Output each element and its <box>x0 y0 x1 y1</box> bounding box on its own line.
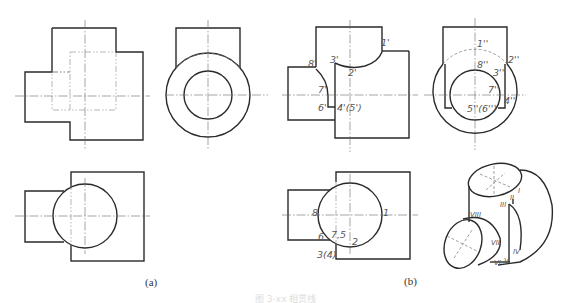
view-b-isometric: I II III IV V VI VII VIII <box>438 159 553 274</box>
bottom-caption: 图 3-xx 相贯线 <box>255 293 316 303</box>
svg-text:3': 3' <box>330 54 339 65</box>
svg-text:8': 8' <box>308 58 317 69</box>
svg-text:6': 6' <box>318 102 327 113</box>
svg-text:5''(6''): 5''(6'') <box>467 103 497 114</box>
svg-text:7': 7' <box>318 84 327 95</box>
orthographic-drawing: (a) 1' 2' 3' 8' 7' 6' 4'(5') 1'' 2'' 3''… <box>0 0 568 303</box>
svg-text:3(4): 3(4) <box>317 249 337 260</box>
view-a-side <box>165 20 268 150</box>
view-a-front <box>15 20 150 150</box>
svg-text:3'': 3'' <box>493 67 504 78</box>
svg-text:1: 1 <box>383 207 389 218</box>
svg-text:4'': 4'' <box>504 95 515 106</box>
svg-text:1'': 1'' <box>477 38 488 49</box>
svg-text:VII: VII <box>491 239 500 247</box>
svg-text:1': 1' <box>381 37 390 48</box>
view-b-front: 1' 2' 3' 8' 7' 6' 4'(5') <box>282 20 418 152</box>
view-b-top: 8 1 6 7,5 2 3(4) <box>282 172 418 260</box>
svg-text:VI: VI <box>494 259 501 267</box>
svg-text:III: III <box>500 201 506 209</box>
svg-text:8'': 8'' <box>477 59 488 70</box>
svg-text:I: I <box>518 187 520 195</box>
svg-text:II: II <box>510 194 514 202</box>
svg-text:7,5: 7,5 <box>331 229 346 240</box>
svg-text:4'(5'): 4'(5') <box>337 102 362 113</box>
svg-text:8: 8 <box>312 207 318 218</box>
svg-text:2: 2 <box>352 236 358 247</box>
svg-text:7'': 7'' <box>488 84 499 95</box>
svg-text:IV: IV <box>513 248 521 256</box>
caption-a: (a) <box>145 276 158 289</box>
caption-b: (b) <box>404 275 417 288</box>
view-b-side: 1'' 2'' 3'' 8'' 7'' 4'' 5''(6'') <box>424 18 526 150</box>
svg-text:2'': 2'' <box>508 54 519 65</box>
svg-text:VIII: VIII <box>470 211 481 219</box>
view-a-top <box>15 172 150 261</box>
svg-text:6: 6 <box>318 231 324 242</box>
svg-text:2': 2' <box>348 67 357 78</box>
